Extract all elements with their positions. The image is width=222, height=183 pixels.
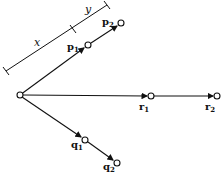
- node-p2: [118, 20, 124, 26]
- edges: [20, 26, 213, 160]
- label-p1: p1: [67, 41, 79, 54]
- node-r1: [148, 93, 154, 99]
- label-r1: r1: [139, 101, 149, 114]
- edge-q1-q2: [88, 142, 113, 160]
- label-p2: p2: [102, 16, 114, 29]
- node-r2: [214, 93, 220, 99]
- label-q2: q2: [103, 161, 115, 174]
- edge-origin-q1: [22, 97, 81, 137]
- label-q1: q1: [71, 139, 83, 152]
- label-y: y: [84, 3, 92, 16]
- node-q2: [114, 160, 120, 166]
- node-p1: [85, 42, 91, 48]
- edge-origin-r1: [23, 95, 147, 96]
- measurement-bar: [3, 1, 110, 75]
- nodes: [17, 20, 220, 166]
- label-x: x: [34, 36, 41, 49]
- path-diagram: x y p1 p2 r1 r2 q1 q2: [0, 0, 222, 183]
- node-origin: [17, 92, 23, 98]
- label-r2: r2: [205, 101, 215, 114]
- node-q1: [82, 137, 88, 143]
